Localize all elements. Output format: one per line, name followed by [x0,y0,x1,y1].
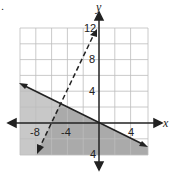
inequality-graph: x y -8 -4 4 12 8 4 4 . [0,0,174,176]
x-tick-4: 4 [128,126,134,138]
x-tick-neg8: -8 [30,126,40,138]
y-tick-12: 12 [84,22,96,34]
y-tick-4: 4 [89,85,95,97]
bullet-mark: . [1,0,4,12]
x-axis-label: x [162,116,169,130]
x-tick-neg4: -4 [61,126,71,138]
y-tick-8: 8 [89,53,95,65]
y-axis-label: y [95,0,102,14]
y-tick-neg4: 4 [90,148,96,160]
